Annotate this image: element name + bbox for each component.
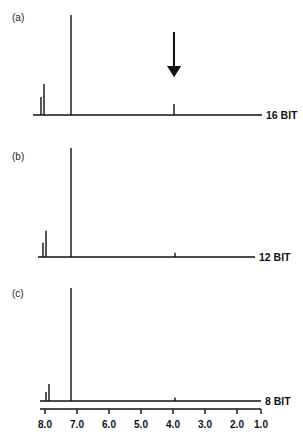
panel-a: (a)16 BIT xyxy=(12,12,298,121)
x-tick-label: 8.0 xyxy=(38,419,52,430)
panel-label: (c) xyxy=(12,288,24,299)
x-tick-label: 7.0 xyxy=(70,419,84,430)
panel-label: (b) xyxy=(12,151,24,162)
x-tick-label: 1.0 xyxy=(254,419,268,430)
bit-depth-label: 12 BIT xyxy=(259,251,291,263)
x-tick-label: 5.0 xyxy=(134,419,148,430)
x-tick-label: 6.0 xyxy=(102,419,116,430)
spectra-panels: (a)16 BIT(b)12 BIT(c)8 BIT xyxy=(12,12,298,407)
bit-depth-label: 16 BIT xyxy=(266,109,298,121)
panel-label: (a) xyxy=(12,12,24,23)
panel-b: (b)12 BIT xyxy=(12,148,291,263)
x-tick-label: 4.0 xyxy=(166,419,180,430)
x-tick-label: 2.0 xyxy=(230,419,244,430)
x-axis: 8.07.06.05.04.03.02.01.0 xyxy=(38,409,268,430)
x-tick-label: 3.0 xyxy=(198,419,212,430)
bit-depth-label: 8 BIT xyxy=(265,395,291,407)
nmr-spectra-chart: (a)16 BIT(b)12 BIT(c)8 BIT 8.07.06.05.04… xyxy=(0,0,303,440)
panel-c: (c)8 BIT xyxy=(12,288,291,407)
arrow-down-icon xyxy=(167,32,181,77)
